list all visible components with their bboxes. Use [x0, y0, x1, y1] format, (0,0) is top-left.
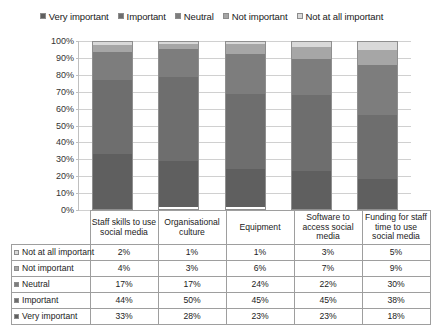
bar-segment [292, 95, 331, 170]
series-label: Important [22, 295, 58, 305]
y-axis-tick-label: 100% [18, 36, 74, 46]
stacked-bar [92, 41, 133, 210]
bar-segment [93, 45, 132, 52]
bar-segment [93, 52, 132, 80]
table-cell: 17% [90, 277, 158, 293]
bar-segment [358, 50, 397, 65]
table-column-header: Staff skills to use social media [90, 211, 158, 245]
legend-swatch-icon [175, 13, 181, 19]
table-cell: 7% [294, 261, 362, 277]
data-table: Staff skills to use social mediaOrganisa… [11, 210, 431, 325]
legend-swatch-icon [40, 13, 46, 19]
legend-label: Important [127, 11, 166, 22]
table-cell: 23% [294, 309, 362, 325]
table-column-header: Organisational culture [158, 211, 226, 245]
y-axis-tick-label: 70% [18, 87, 74, 97]
legend-label: Not at all important [306, 11, 384, 22]
series-label: Very important [22, 311, 77, 321]
table-cell: 4% [90, 261, 158, 277]
table-row: Important44%50%45%45%38% [12, 293, 431, 309]
table-cell: 6% [226, 261, 294, 277]
series-label: Not at all important [22, 247, 94, 257]
legend-item: Very important [40, 11, 109, 22]
table-cell: 22% [294, 277, 362, 293]
table-cell: 2% [90, 245, 158, 261]
bar-segment [159, 49, 198, 77]
table-row-header: Very important [12, 309, 91, 325]
bar-segment [159, 77, 198, 161]
table-row: Very important33%28%23%23%18% [12, 309, 431, 325]
table-cell: 24% [226, 277, 294, 293]
y-axis-labels: 100%90%80%70%60%50%40%30%20%10%0% [18, 34, 74, 218]
table-cell: 3% [158, 261, 226, 277]
series-swatch-icon [14, 314, 19, 319]
bar-segment [292, 47, 331, 59]
legend-label: Neutral [184, 11, 214, 22]
legend-item: Important [118, 11, 166, 22]
series-swatch-icon [14, 298, 19, 303]
series-swatch-icon [14, 250, 19, 255]
table-cell: 38% [362, 293, 430, 309]
legend-item: Neutral [175, 11, 214, 22]
table-cell: 17% [158, 277, 226, 293]
y-axis-tick-label: 90% [18, 53, 74, 63]
table-column-header: Funding for staff time to use social med… [362, 211, 430, 245]
table-cell: 44% [90, 293, 158, 309]
table-header-row: Staff skills to use social mediaOrganisa… [12, 211, 431, 245]
bar-segment [358, 65, 397, 115]
table-column-header: Equipment [226, 211, 294, 245]
table-cell: 18% [362, 309, 430, 325]
table-cell: 9% [362, 261, 430, 277]
table-cell: 5% [362, 245, 430, 261]
series-label: Not important [22, 263, 74, 273]
series-label: Neutral [22, 279, 50, 289]
table-cell: 1% [226, 245, 294, 261]
table-cell: 50% [158, 293, 226, 309]
y-axis-tick-label: 30% [18, 154, 74, 164]
bar-slot [278, 41, 344, 210]
table-cell: 3% [294, 245, 362, 261]
stacked-bar [357, 41, 398, 210]
series-swatch-icon [14, 266, 19, 271]
table-cell: 28% [158, 309, 226, 325]
table-row: Neutral17%17%24%22%30% [12, 277, 431, 293]
bar-segment [226, 94, 265, 169]
bar-slot [345, 41, 411, 210]
bar-slot [145, 41, 211, 210]
legend-item: Not important [223, 11, 288, 22]
table-cell: 33% [90, 309, 158, 325]
table-cell: 45% [294, 293, 362, 309]
y-axis-tick-label: 60% [18, 104, 74, 114]
legend-swatch-icon [297, 13, 303, 19]
legend-swatch-icon [118, 13, 124, 19]
bar-segment [93, 154, 132, 209]
y-axis-tick-label: 80% [18, 70, 74, 80]
y-axis-tick-label: 50% [18, 121, 74, 131]
bar-segment [358, 179, 397, 209]
stacked-bar [291, 41, 332, 210]
legend-swatch-icon [223, 13, 229, 19]
legend-label: Very important [49, 11, 109, 22]
legend-label: Not important [232, 11, 288, 22]
y-axis-tick-label: 40% [18, 137, 74, 147]
y-axis-tick-label: 20% [18, 171, 74, 181]
bar-segment [226, 169, 265, 207]
bar-slot [212, 41, 278, 210]
bar-segment [93, 80, 132, 153]
legend-item: Not at all important [297, 11, 384, 22]
table-cell: 23% [226, 309, 294, 325]
stacked-bar [158, 41, 199, 210]
table-row: Not at all important2%1%1%3%5% [12, 245, 431, 261]
table-row-header: Important [12, 293, 91, 309]
bar-segment [358, 42, 397, 50]
bar-segment [159, 161, 198, 208]
bar-segment [292, 59, 331, 96]
table-corner-cell [12, 211, 91, 245]
table-row-header: Not at all important [12, 245, 91, 261]
stacked-bar [225, 41, 266, 210]
bar-segment [358, 115, 397, 178]
series-swatch-icon [14, 282, 19, 287]
plot-area [78, 41, 411, 210]
table-row: Not important4%3%6%7%9% [12, 261, 431, 277]
